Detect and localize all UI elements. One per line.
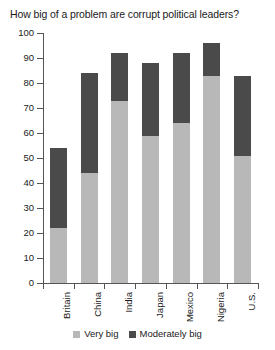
x-axis-label-india: India — [124, 292, 134, 313]
y-axis-tick-label: 60 — [4, 128, 34, 138]
x-axis-tick — [43, 283, 44, 289]
y-axis-tick-label: 70 — [4, 103, 34, 113]
legend-item: Moderately big — [129, 329, 202, 339]
y-axis-tick-label: 100 — [4, 28, 34, 38]
legend-swatch-icon — [73, 331, 80, 338]
stacked-bar-chart: How big of a problem are corrupt politic… — [0, 0, 275, 350]
bar-segment — [50, 228, 67, 283]
x-axis-label-nigeria: Nigeria — [216, 292, 226, 322]
bar-segment — [111, 101, 128, 284]
bar-segment — [234, 156, 251, 284]
bar-group — [142, 63, 159, 283]
legend-item: Very big — [73, 329, 118, 339]
bar-segment — [173, 123, 190, 283]
x-axis-label-mexico: Mexico — [185, 292, 195, 322]
x-axis-tick — [197, 283, 198, 289]
bar-segment — [142, 136, 159, 284]
y-axis-tick-label: 90 — [4, 53, 34, 63]
bar-segment — [234, 76, 251, 156]
bar-segment — [203, 76, 220, 284]
bar-segment — [81, 173, 98, 283]
y-axis-tick-label: 10 — [4, 253, 34, 263]
y-axis-tick-label: 30 — [4, 203, 34, 213]
plot-area — [43, 33, 258, 283]
bar-segment — [173, 53, 190, 123]
bar-segment — [142, 63, 159, 136]
x-axis-tick — [258, 283, 259, 289]
x-axis-label-japan: Japan — [155, 292, 165, 318]
x-axis-tick — [104, 283, 105, 289]
chart-legend: Very bigModerately big — [0, 329, 275, 339]
y-axis-tick-label: 80 — [4, 78, 34, 88]
x-axis-tick — [74, 283, 75, 289]
chart-title: How big of a problem are corrupt politic… — [10, 8, 272, 20]
bar-segment — [111, 53, 128, 101]
bar-group — [173, 53, 190, 283]
legend-label: Moderately big — [140, 329, 202, 339]
x-axis-tick — [227, 283, 228, 289]
bar-group — [111, 53, 128, 283]
y-axis-tick-label: 0 — [4, 278, 34, 288]
x-axis-tick — [166, 283, 167, 289]
bar-segment — [50, 148, 67, 228]
bar-group — [234, 76, 251, 284]
y-axis-tick-label: 40 — [4, 178, 34, 188]
x-axis-tick — [135, 283, 136, 289]
bar-group — [50, 148, 67, 283]
bar-group — [81, 73, 98, 283]
bar-segment — [81, 73, 98, 173]
x-axis-label-us: U.S. — [247, 292, 257, 310]
x-axis-label-china: China — [93, 292, 103, 317]
x-axis-label-britain: Britain — [62, 292, 72, 319]
bar-segment — [203, 43, 220, 76]
legend-swatch-icon — [129, 331, 136, 338]
legend-label: Very big — [84, 329, 118, 339]
bar-group — [203, 43, 220, 283]
y-axis-tick-label: 20 — [4, 228, 34, 238]
y-axis-tick-label: 50 — [4, 153, 34, 163]
